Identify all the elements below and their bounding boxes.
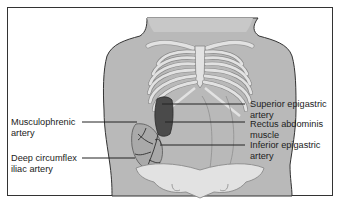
- label-rectus-abdominis-muscle: Rectus abdominis muscle: [250, 119, 323, 140]
- label-line: muscle: [250, 130, 323, 141]
- label-line: Superior epigastric: [250, 99, 327, 110]
- label-musculophrenic-artery: Musculophrenic artery: [11, 117, 75, 138]
- label-line: Rectus abdominis: [250, 119, 323, 130]
- label-line: artery: [11, 128, 75, 139]
- rectus-abdominis-muscle: [155, 97, 173, 136]
- label-line: Deep circumflex: [11, 153, 77, 164]
- label-deep-circumflex-iliac-artery: Deep circumflex iliac artery: [11, 153, 77, 174]
- label-inferior-epigastric-artery: Inferior epigastric artery: [250, 140, 320, 161]
- label-line: Musculophrenic: [11, 117, 75, 128]
- label-superior-epigastric-artery: Superior epigastric artery: [250, 99, 327, 120]
- label-line: artery: [250, 151, 320, 162]
- label-line: iliac artery: [11, 164, 77, 175]
- label-line: Inferior epigastric: [250, 140, 320, 151]
